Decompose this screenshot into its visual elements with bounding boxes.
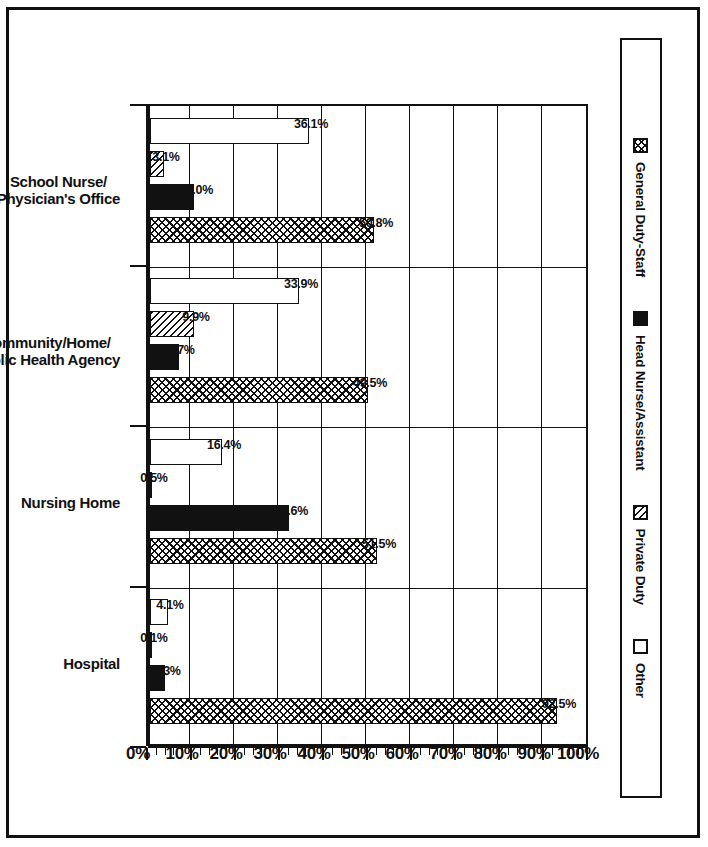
axis-tick-label: 90%	[518, 744, 551, 764]
group-separator	[150, 587, 586, 588]
bar: 16.4%	[150, 438, 222, 464]
bar-value-label: 16.4%	[207, 437, 241, 451]
bar: 92.5%	[150, 698, 557, 724]
bar: 36.1%	[150, 117, 309, 143]
bar-value-label: 49.5%	[353, 376, 387, 390]
axis-tick-label: 10%	[166, 744, 199, 764]
category-label: Community/Home/Public Health Agency	[0, 334, 120, 368]
gridline	[365, 106, 366, 744]
bar-value-label: 92.5%	[542, 697, 576, 711]
legend-entry: Private Duty	[634, 504, 649, 604]
category-tick	[130, 264, 146, 266]
axis-tick-minor	[200, 748, 201, 755]
axis-tick-label: 40%	[298, 744, 331, 764]
legend-swatch-private-duty	[634, 504, 649, 519]
value-axis: 0%10%20%30%40%50%60%70%80%90%100%	[148, 746, 588, 748]
category-label-line: Nursing Home	[21, 495, 120, 512]
axis-tick-label: 50%	[342, 744, 375, 764]
category-label: School Nurse/Physician's Office	[0, 174, 120, 208]
bar: 10.0%	[150, 183, 194, 209]
bar-value-label: 31.6%	[274, 503, 308, 517]
legend-swatch-other	[634, 638, 649, 653]
gridline	[321, 106, 322, 744]
category-tick	[130, 425, 146, 427]
axis-tick-label: 100%	[557, 744, 599, 764]
axis-tick-minor	[552, 748, 553, 755]
bar-value-label: 50.8%	[359, 215, 393, 229]
category-label-line: Hospital	[63, 655, 120, 672]
plot-area: 36.1%3.1%10.0%50.8%33.9%9.9%6.7%49.5%16.…	[148, 104, 588, 746]
legend-label: Private Duty	[634, 528, 649, 604]
legend-entry: Other	[634, 638, 649, 697]
axis-tick-label: 20%	[210, 744, 243, 764]
bar-value-label: 10.0%	[179, 182, 213, 196]
group-separator	[150, 427, 586, 428]
bar-value-label: 51.5%	[362, 536, 396, 550]
bar: 6.7%	[150, 344, 179, 370]
bar-value-label: 4.1%	[156, 598, 183, 612]
gridline	[277, 106, 278, 744]
bar: 0.1%	[150, 632, 152, 658]
bar: 33.9%	[150, 278, 299, 304]
bar: 9.9%	[150, 311, 194, 337]
chart-legend: General Duty-StaffHead Nurse/AssistantPr…	[620, 38, 662, 798]
bar: 51.5%	[150, 537, 377, 563]
category-tick	[130, 585, 146, 587]
bar: 3.1%	[150, 150, 164, 176]
category-axis: School Nurse/Physician's OfficeCommunity…	[146, 104, 148, 746]
axis-tick-minor	[332, 748, 333, 755]
legend-entry: General Duty-Staff	[634, 138, 649, 277]
gridline	[497, 106, 498, 744]
gridline	[541, 106, 542, 744]
bar-value-label: 6.7%	[168, 343, 195, 357]
legend-label: General Duty-Staff	[634, 162, 649, 277]
legend-swatch-general-duty-staff	[634, 138, 649, 153]
bar-value-label: 9.9%	[182, 310, 209, 324]
category-tick	[130, 746, 146, 748]
bar: 50.8%	[150, 216, 374, 242]
bar: 49.5%	[150, 377, 368, 403]
chart-canvas: General Duty-StaffHead Nurse/AssistantPr…	[34, 24, 674, 824]
bar: 3.3%	[150, 665, 165, 691]
chart-page: General Duty-StaffHead Nurse/AssistantPr…	[0, 0, 708, 847]
group-separator	[150, 266, 586, 267]
axis-tick-minor	[156, 748, 157, 755]
bar: 4.1%	[150, 599, 168, 625]
legend-entry: Head Nurse/Assistant	[634, 310, 649, 470]
rotated-figure-wrapper: General Duty-StaffHead Nurse/AssistantPr…	[0, 0, 708, 847]
category-tick	[130, 104, 146, 106]
bar: 0.5%	[150, 471, 152, 497]
axis-tick-label: 80%	[474, 744, 507, 764]
bar: 31.6%	[150, 504, 289, 530]
legend-label: Head Nurse/Assistant	[634, 334, 649, 470]
axis-tick-minor	[508, 748, 509, 755]
axis-tick-minor	[420, 748, 421, 755]
legend-swatch-head-nurse-assistant	[634, 310, 649, 325]
bar-value-label: 36.1%	[294, 116, 328, 130]
category-label-line: Physician's Office	[0, 191, 120, 208]
bar-value-label: 33.9%	[284, 277, 318, 291]
axis-tick-minor	[464, 748, 465, 755]
gridline	[233, 106, 234, 744]
category-label-line: Community/Home/	[0, 334, 120, 351]
bar-value-label: 0.5%	[141, 470, 168, 484]
bar-value-label: 0.1%	[140, 631, 167, 645]
gridline	[409, 106, 410, 744]
axis-tick-minor	[244, 748, 245, 755]
axis-tick-label: 60%	[386, 744, 419, 764]
category-label: Hospital	[63, 655, 120, 672]
axis-tick-minor	[376, 748, 377, 755]
gridline	[453, 106, 454, 744]
legend-label: Other	[634, 662, 649, 697]
category-label-line: School Nurse/	[0, 174, 120, 191]
bar-value-label: 3.1%	[152, 149, 179, 163]
axis-tick-minor	[288, 748, 289, 755]
category-label: Nursing Home	[21, 495, 120, 512]
axis-tick-label: 30%	[254, 744, 287, 764]
axis-tick-label: 70%	[430, 744, 463, 764]
bar-value-label: 3.3%	[153, 664, 180, 678]
category-label-line: Public Health Agency	[0, 351, 120, 368]
